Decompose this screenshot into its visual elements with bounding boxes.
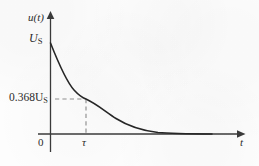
- decay-curve: [51, 43, 213, 134]
- y-tau-value-label: 0.368US: [9, 92, 48, 105]
- origin-label: 0: [38, 137, 44, 148]
- y-peak-label-base: U: [29, 31, 38, 45]
- y-peak-label-subscript: S: [38, 36, 43, 46]
- x-tau-tick-label: τ: [82, 137, 86, 148]
- figure-canvas: u(t) US 0.368US 0 τ t: [0, 0, 259, 166]
- y-axis-arrowhead: [47, 11, 55, 19]
- y-axis-label-text: u(t): [28, 11, 44, 23]
- x-axis: [38, 130, 246, 138]
- x-axis-label: t: [240, 137, 243, 148]
- y-tau-value-label-base: 0.368U: [9, 91, 43, 103]
- y-axis-label: u(t): [28, 12, 44, 23]
- y-tau-value-label-subscript: S: [43, 96, 48, 105]
- y-axis: [47, 11, 55, 152]
- y-peak-label: US: [29, 32, 42, 46]
